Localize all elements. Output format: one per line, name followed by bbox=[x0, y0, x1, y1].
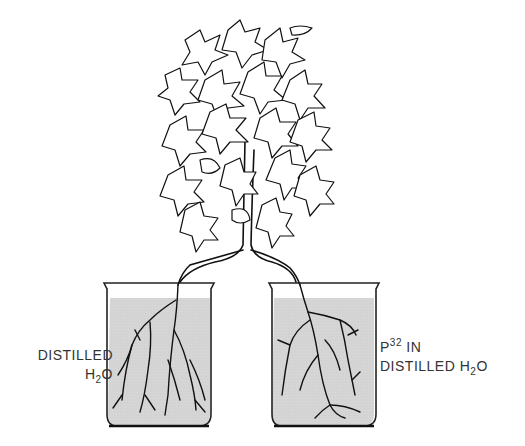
right-beaker bbox=[269, 283, 379, 426]
left-beaker bbox=[104, 283, 214, 426]
right-beaker-label: P32 IN DISTILLED H2O bbox=[380, 333, 488, 380]
diagram-canvas: DISTILLED H2O P32 IN DISTILLED H2O bbox=[0, 0, 525, 446]
right-label-line2: DISTILLED H2O bbox=[380, 357, 488, 381]
left-label-line2: H2O bbox=[38, 365, 113, 389]
left-label-line1: DISTILLED bbox=[38, 346, 113, 365]
left-beaker-label: DISTILLED H2O bbox=[38, 346, 113, 389]
right-label-line1: P32 IN bbox=[380, 333, 488, 357]
tree-foliage bbox=[158, 20, 334, 252]
